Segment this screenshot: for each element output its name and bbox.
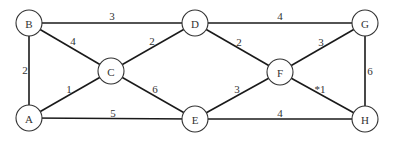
node-h: H bbox=[352, 106, 378, 132]
nodes-layer: ABCDEFGH bbox=[16, 10, 378, 132]
edges-layer bbox=[29, 23, 365, 119]
node-label: A bbox=[25, 113, 33, 125]
node-label: D bbox=[191, 18, 199, 30]
edge-weight-f-h: *1 bbox=[315, 83, 326, 95]
node-a: A bbox=[16, 105, 42, 131]
edge-c-e bbox=[111, 71, 195, 119]
node-e: E bbox=[182, 106, 208, 132]
node-c: C bbox=[98, 58, 124, 84]
node-label: E bbox=[192, 114, 199, 126]
node-label: H bbox=[361, 114, 369, 126]
edge-b-c bbox=[29, 23, 111, 71]
edge-e-f bbox=[195, 72, 280, 119]
edge-weight-f-g: 3 bbox=[318, 36, 324, 48]
edge-weight-b-a: 2 bbox=[22, 64, 28, 76]
edge-weight-c-e: 6 bbox=[152, 83, 158, 95]
node-label: B bbox=[25, 18, 32, 30]
edge-weight-g-h: 6 bbox=[367, 65, 373, 77]
node-g: G bbox=[352, 10, 378, 36]
node-d: D bbox=[182, 10, 208, 36]
edge-weight-e-f: 3 bbox=[234, 83, 240, 95]
edge-weight-b-c: 4 bbox=[70, 35, 76, 47]
edge-weight-b-d: 3 bbox=[109, 10, 115, 22]
edge-weight-a-e: 5 bbox=[110, 107, 116, 119]
edge-f-h bbox=[280, 72, 365, 119]
edge-c-d bbox=[111, 23, 195, 71]
graph-diagram: 34422326163*154 ABCDEFGH bbox=[0, 0, 393, 141]
node-f: F bbox=[267, 59, 293, 85]
edge-weight-d-f: 2 bbox=[236, 36, 242, 48]
edge-weight-e-h: 4 bbox=[277, 107, 283, 119]
node-b: B bbox=[16, 10, 42, 36]
node-label: F bbox=[277, 67, 283, 79]
edge-weight-c-d: 2 bbox=[149, 35, 155, 47]
node-label: G bbox=[361, 18, 369, 30]
edge-weight-d-g: 4 bbox=[277, 10, 283, 22]
node-label: C bbox=[107, 66, 114, 78]
edge-weight-a-c: 1 bbox=[66, 83, 72, 95]
